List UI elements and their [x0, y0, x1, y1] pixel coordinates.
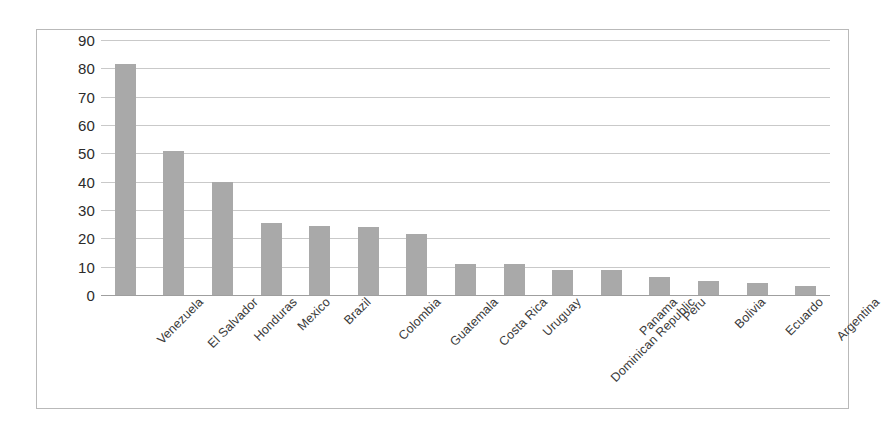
bar: [795, 286, 816, 295]
y-tick-label: 40: [67, 174, 95, 189]
x-tick-label: Argentina: [834, 295, 882, 343]
bar: [261, 223, 282, 295]
bar: [698, 281, 719, 295]
y-tick-label: 70: [67, 89, 95, 104]
bar: [552, 270, 573, 296]
x-tick-label: Costa Rica: [496, 295, 550, 349]
chart-figure: 0102030405060708090 VenezuelaEl Salvador…: [36, 29, 849, 409]
x-tick-label: Bolivia: [731, 295, 767, 331]
bar: [406, 234, 427, 295]
y-tick-label: 0: [67, 288, 95, 303]
bars-group: [101, 40, 830, 295]
bar: [747, 283, 768, 295]
y-tick-label: 60: [67, 118, 95, 133]
bar: [163, 151, 184, 296]
bar: [212, 182, 233, 295]
y-tick-label: 20: [67, 231, 95, 246]
y-tick-label: 50: [67, 146, 95, 161]
x-tick-label: Guatemala: [447, 295, 501, 349]
plot-area: 0102030405060708090: [67, 40, 830, 295]
x-tick-label: Colombia: [396, 295, 444, 343]
bar: [601, 270, 622, 295]
x-tick-label: Ecuardo: [783, 295, 826, 338]
bar: [115, 64, 136, 295]
x-tick-label: Brazil: [341, 295, 373, 327]
y-tick-label: 10: [67, 259, 95, 274]
y-tick-label: 80: [67, 61, 95, 76]
bar: [504, 264, 525, 295]
x-axis-category-labels: VenezuelaEl SalvadorHondurasMexicoBrazil…: [101, 295, 864, 405]
x-tick-label: Venezuela: [155, 295, 207, 347]
x-tick-label: El Salvador: [205, 295, 261, 351]
bar: [649, 277, 670, 295]
x-tick-label: Mexico: [295, 295, 333, 333]
y-tick-label: 90: [67, 33, 95, 48]
y-tick-label: 30: [67, 203, 95, 218]
bar: [309, 226, 330, 295]
bar: [358, 227, 379, 295]
bar: [455, 264, 476, 295]
